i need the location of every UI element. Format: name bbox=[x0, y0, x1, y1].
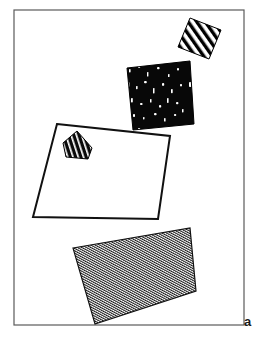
shape-black-speckled-rectangle bbox=[127, 61, 194, 130]
shape-white-quadrilateral bbox=[33, 124, 170, 219]
panel-label-a: a bbox=[244, 315, 251, 328]
shape-fine-hatched-quadrilateral bbox=[73, 228, 196, 324]
shape-coarse-hatched-parallelogram bbox=[178, 18, 221, 59]
figure-canvas bbox=[0, 0, 261, 346]
figure-panel: a bbox=[0, 0, 261, 346]
